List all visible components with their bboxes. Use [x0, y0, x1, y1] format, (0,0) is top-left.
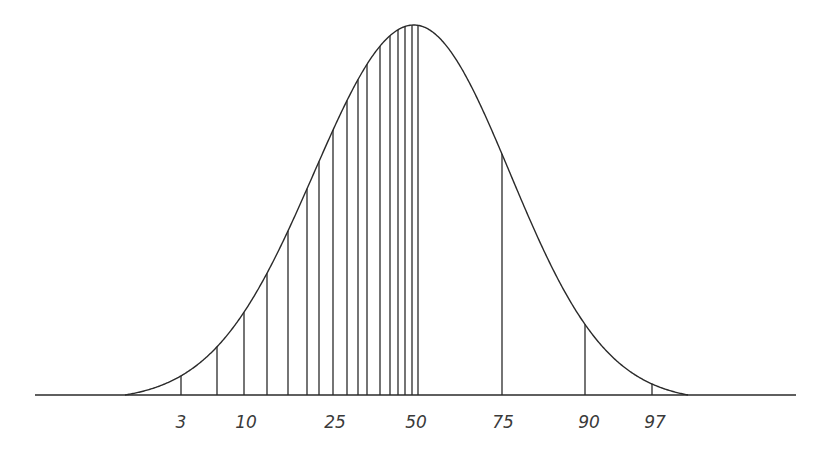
bell-curve-diagram: 3 10 25 50 75 90 97 — [0, 0, 818, 459]
percentile-label-75: 75 — [492, 412, 514, 432]
percentile-label-25: 25 — [324, 412, 346, 432]
percentile-label-50: 50 — [405, 412, 427, 432]
percentile-label-3: 3 — [176, 412, 187, 432]
percentile-label-10: 10 — [235, 412, 257, 432]
normal-distribution-curve — [125, 25, 688, 395]
percentile-lines — [181, 25, 652, 395]
percentile-label-97: 97 — [644, 412, 666, 432]
percentile-label-90: 90 — [578, 412, 600, 432]
percentile-labels: 3 10 25 50 75 90 97 — [176, 412, 666, 432]
